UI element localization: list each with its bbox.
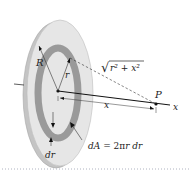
- label-r: r: [65, 70, 70, 80]
- label-x-axis: x: [173, 102, 178, 112]
- label-sqrt: √: [101, 60, 110, 75]
- label-distance-expr: r² + x²: [110, 63, 140, 73]
- x-dim-arrow-right: [150, 106, 154, 110]
- label-x-distance: x: [104, 100, 109, 110]
- label-P: P: [154, 89, 162, 100]
- label-dr: dr: [45, 150, 56, 160]
- label-R: R: [35, 57, 44, 68]
- disk-diagram: R r √ r² + x² x P x dA = 2πr dr dr: [0, 0, 191, 172]
- label-dA: dA = 2πr dr: [88, 141, 143, 151]
- axis-left: [14, 84, 24, 85]
